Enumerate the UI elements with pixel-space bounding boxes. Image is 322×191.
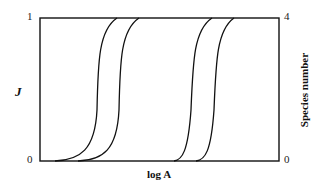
- plot-frame: [40, 18, 279, 161]
- chart-plot: [0, 0, 322, 191]
- x-axis-label: log A: [147, 168, 171, 180]
- y2-axis-label: Species number: [298, 48, 310, 132]
- curve-3: [174, 18, 212, 161]
- y-tick-bottom: 0: [27, 153, 33, 165]
- curve-2: [78, 18, 139, 161]
- curve-4: [196, 18, 234, 161]
- y-axis-label: J: [15, 84, 22, 100]
- y2-tick-bottom: 0: [284, 153, 290, 165]
- y2-tick-top: 4: [284, 10, 290, 22]
- curve-1: [55, 18, 117, 161]
- y-tick-top: 1: [27, 10, 33, 22]
